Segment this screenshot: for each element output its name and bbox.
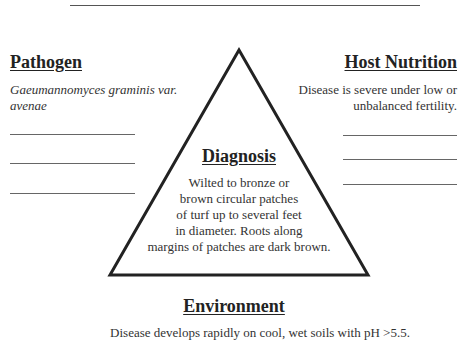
diagnosis-line: Wilted to bronze or [119,175,359,191]
environment-heading: Environment [0,296,468,317]
diagnosis-line: brown circular patches [119,191,359,207]
host-nutrition-heading: Host Nutrition [345,52,458,73]
host-nutrition-text-line2: unbalanced fertility. [257,98,457,114]
environment-text: Disease develops rapidly on cool, wet so… [60,325,460,341]
host-nutrition-blank-line-2[interactable] [343,159,457,160]
pathogen-blank-line-1[interactable] [10,134,135,135]
pathogen-blank-line-2[interactable] [10,163,135,164]
pathogen-heading: Pathogen [10,52,82,73]
diagnosis-line: in diameter. Roots along [119,223,359,239]
host-nutrition-text-line1: Disease is severe under low or [257,82,457,98]
diagnosis-text: Wilted to bronze or brown circular patch… [119,175,359,255]
host-nutrition-blank-line-1[interactable] [343,135,457,136]
diagnosis-line: of turf up to several feet [119,207,359,223]
host-nutrition-blank-line-3[interactable] [343,184,457,185]
pathogen-text: Gaeumannomyces graminis var. avenae [10,82,180,114]
diagnosis-heading: Diagnosis [139,146,339,167]
pathogen-blank-line-3[interactable] [10,193,135,194]
diagnosis-line: margins of patches are dark brown. [119,239,359,255]
